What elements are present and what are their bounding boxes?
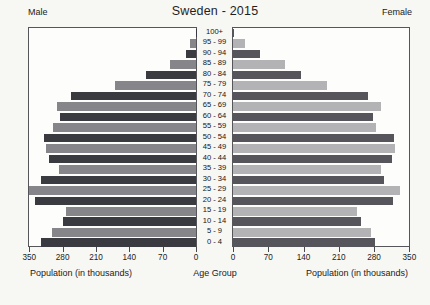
male-bar-65-69: [57, 102, 196, 111]
axis-tick-label: 0: [181, 253, 211, 262]
female-bar-85-89: [233, 60, 285, 69]
female-bar-80-84: [233, 71, 301, 80]
age-group-axis: 100+95 - 9990 - 9485 - 8980 - 8475 - 797…: [197, 27, 232, 247]
male-bar-45-49: [46, 144, 197, 153]
female-bar-100+: [233, 29, 234, 38]
axis-tick-label: 140: [114, 253, 144, 262]
age-label: 85 - 89: [197, 58, 232, 68]
axis-tick-label: 350: [394, 253, 424, 262]
age-label: 65 - 69: [197, 100, 232, 110]
male-side-header: Male: [28, 7, 48, 17]
age-label: 75 - 79: [197, 79, 232, 89]
axis-tick: [339, 247, 340, 252]
axis-tick: [96, 247, 97, 252]
female-bar-20-24: [233, 197, 393, 206]
age-label: 80 - 84: [197, 69, 232, 79]
female-bar-55-59: [233, 123, 376, 132]
female-bar-30-34: [233, 176, 384, 185]
age-label: 55 - 59: [197, 121, 232, 131]
axis-tick: [63, 247, 64, 252]
age-label: 90 - 94: [197, 48, 232, 58]
male-bar-50-54: [44, 134, 196, 143]
male-bar-20-24: [35, 197, 196, 206]
male-bar-0-4: [41, 238, 196, 247]
age-label: 100+: [197, 27, 232, 37]
male-bar-80-84: [146, 71, 196, 80]
chart-title: Sweden - 2015: [0, 4, 430, 18]
axis-tick-label: 210: [81, 253, 111, 262]
male-bar-55-59: [53, 123, 196, 132]
male-bar-95-99: [190, 39, 196, 48]
population-pyramid-chart: Sweden - 2015 Male Female 100+95 - 9990 …: [0, 0, 430, 305]
axis-tick: [233, 247, 234, 252]
axis-tick-label: 70: [148, 253, 178, 262]
female-bar-65-69: [233, 102, 381, 111]
female-bar-5-9: [233, 228, 371, 237]
female-bar-25-29: [233, 186, 400, 195]
age-label: 15 - 19: [197, 205, 232, 215]
male-bar-10-14: [63, 217, 196, 226]
axis-tick-label: 280: [359, 253, 389, 262]
age-label: 0 - 4: [197, 237, 232, 247]
axis-tick: [196, 247, 197, 252]
age-label: 70 - 74: [197, 90, 232, 100]
male-bar-90-94: [186, 50, 196, 59]
age-label: 95 - 99: [197, 37, 232, 47]
male-bar-5-9: [52, 228, 196, 237]
age-label: 50 - 54: [197, 132, 232, 142]
axis-tick-label: 70: [253, 253, 283, 262]
axis-tick: [163, 247, 164, 252]
right-axis-title: Population (in thousands): [306, 268, 408, 278]
male-bar-15-19: [66, 207, 196, 216]
age-label: 60 - 64: [197, 111, 232, 121]
age-label: 25 - 29: [197, 184, 232, 194]
female-side-header: Female: [382, 7, 412, 17]
age-label: 10 - 14: [197, 216, 232, 226]
axis-tick-label: 210: [324, 253, 354, 262]
axis-tick: [304, 247, 305, 252]
axis-tick-label: 280: [48, 253, 78, 262]
female-bar-15-19: [233, 207, 357, 216]
axis-tick-label: 0: [218, 253, 248, 262]
male-bar-40-44: [49, 155, 196, 164]
male-bar-30-34: [41, 176, 196, 185]
female-bar-60-64: [233, 113, 373, 122]
axis-tick: [374, 247, 375, 252]
female-bar-10-14: [233, 217, 361, 226]
female-bar-0-4: [233, 238, 375, 247]
male-bars-panel: [28, 27, 197, 247]
female-bar-95-99: [233, 39, 245, 48]
axis-tick: [29, 247, 30, 252]
male-bar-70-74: [71, 92, 196, 101]
age-label: 35 - 39: [197, 163, 232, 173]
male-bar-60-64: [60, 113, 196, 122]
axis-tick-label: 140: [289, 253, 319, 262]
male-bar-75-79: [115, 81, 196, 90]
axis-tick: [268, 247, 269, 252]
age-label: 30 - 34: [197, 174, 232, 184]
age-label: 20 - 24: [197, 195, 232, 205]
male-bar-85-89: [170, 60, 196, 69]
female-bar-70-74: [233, 92, 368, 101]
female-bars-panel: [232, 27, 410, 247]
age-label: 40 - 44: [197, 153, 232, 163]
female-bar-45-49: [233, 144, 395, 153]
female-bar-90-94: [233, 50, 260, 59]
age-label: 5 - 9: [197, 226, 232, 236]
axis-tick: [129, 247, 130, 252]
male-bar-25-29: [29, 186, 196, 195]
female-bar-35-39: [233, 165, 381, 174]
axis-tick: [409, 247, 410, 252]
age-label: 45 - 49: [197, 142, 232, 152]
male-bar-35-39: [59, 165, 196, 174]
female-bar-40-44: [233, 155, 392, 164]
female-bar-75-79: [233, 81, 327, 90]
axis-tick-label: 350: [14, 253, 44, 262]
female-bar-50-54: [233, 134, 394, 143]
